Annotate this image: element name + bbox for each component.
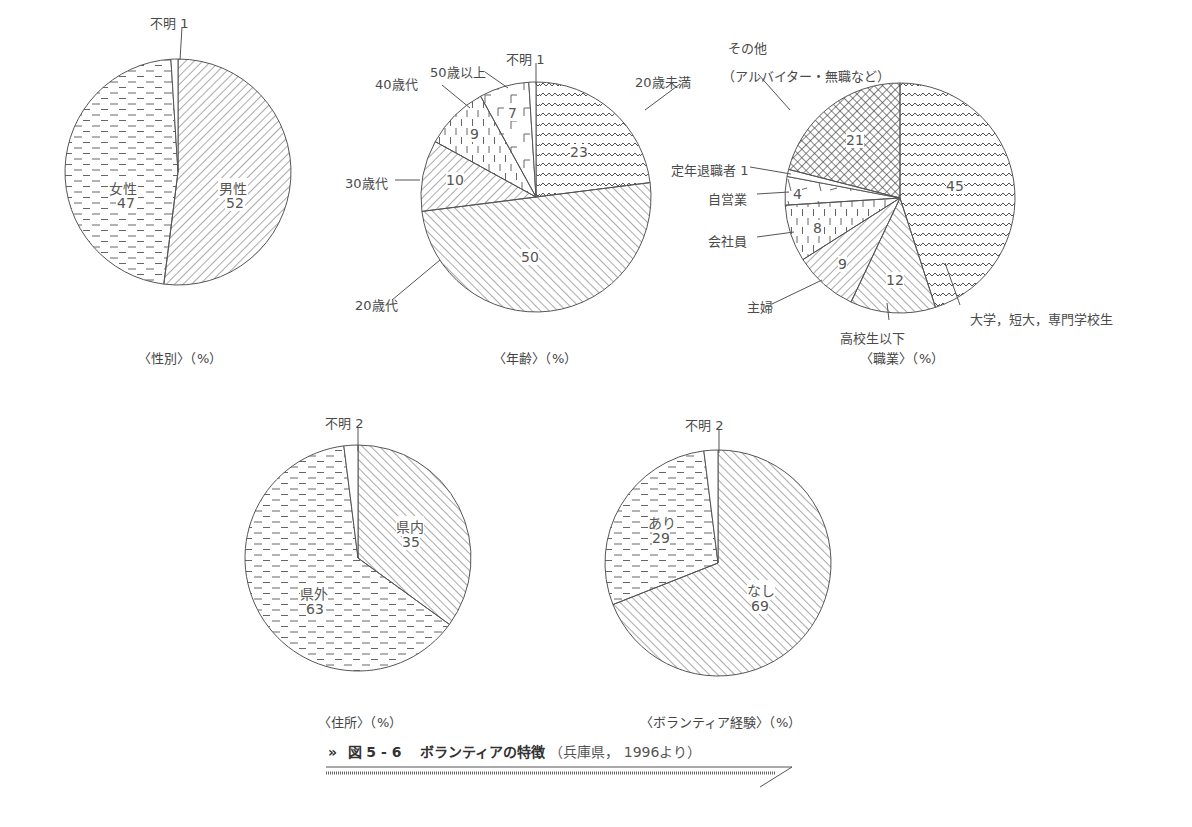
age-twenties-value: 50 — [521, 249, 539, 265]
job-company-label: 会社員 — [708, 231, 747, 250]
pie-slice — [164, 59, 291, 285]
exp-no-value: 69 — [751, 598, 769, 614]
age-unknown-label: 不明 1 — [506, 49, 544, 68]
job-housewife-value: 9 — [838, 256, 847, 272]
address-inside-value: 35 — [402, 534, 420, 550]
leader-line — [442, 85, 470, 108]
exp-yes-value: 29 — [652, 530, 670, 546]
gender-caption: 〈性別〉（%） — [138, 348, 222, 367]
age-forties-value: 9 — [470, 126, 479, 142]
leader-line — [757, 192, 789, 194]
job-caption: 〈職業〉（%） — [860, 348, 944, 367]
leader-line — [392, 260, 440, 300]
leader-line — [485, 72, 508, 88]
figure-title: ボランティアの特徴 — [420, 744, 545, 760]
caption-marker-icon: » — [328, 744, 337, 760]
age-thirties-value: 10 — [446, 172, 464, 188]
leader-line — [757, 232, 794, 237]
gender-male-value: 52 — [225, 195, 245, 211]
job-univ-value: 45 — [946, 178, 964, 194]
pie-slice — [536, 82, 650, 197]
address-outside-label: 県外 — [300, 583, 328, 603]
figure-number: 図 5 - 6 — [348, 744, 402, 760]
pie-age — [421, 82, 651, 312]
job-other-label: その他 — [728, 38, 767, 57]
job-self-label: 自営業 — [708, 189, 747, 208]
leader-line — [750, 167, 791, 174]
gender-female-value: 47 — [116, 195, 136, 211]
pie-address — [245, 445, 471, 671]
age-forties-label: 40歳代 — [375, 74, 418, 93]
pie-experience — [605, 450, 831, 676]
age-under20-label: 20歳未満 — [635, 72, 691, 91]
job-company-value: 8 — [813, 220, 822, 236]
job-other-sublabel: （アルバイター・無職など） — [722, 66, 890, 85]
gender-unknown-label: 不明 1 — [150, 13, 188, 32]
exp-yes-label: あり — [648, 512, 676, 532]
address-unknown-label: 不明 2 — [325, 413, 363, 432]
job-housewife-label: 主婦 — [747, 297, 773, 316]
job-highschool-label: 高校生以下 — [840, 328, 905, 347]
age-over50-label: 50歳以上 — [430, 62, 486, 81]
age-under20-value: 23 — [570, 144, 588, 160]
pie-slice — [65, 59, 178, 284]
job-other-value: 21 — [846, 132, 864, 148]
address-inside-label: 県内 — [396, 516, 424, 536]
age-twenties-label: 20歳代 — [355, 295, 398, 314]
figure-caption: » 図 5 - 6 ボランティアの特徴 （兵庫県， 1996より） — [328, 741, 701, 761]
exp-no-label: なし — [747, 580, 775, 600]
address-caption: 〈住所〉（%） — [318, 712, 402, 731]
job-univ-label: 大学，短大，専門学校生 — [970, 309, 1113, 328]
job-highschool-value: 12 — [886, 272, 904, 288]
address-outside-value: 63 — [306, 601, 324, 617]
exp-caption: 〈ボランティア経験〉（%） — [640, 712, 801, 731]
age-over50-value: 7 — [508, 105, 517, 121]
leader-line — [772, 280, 822, 304]
job-retired-label: 定年退職者 1 — [671, 160, 748, 179]
age-thirties-label: 30歳代 — [345, 173, 388, 192]
job-self-value: 4 — [793, 186, 802, 202]
figure-source: （兵庫県， 1996より） — [549, 744, 701, 760]
age-caption: 〈年齢〉（%） — [493, 348, 577, 367]
figure-canvas — [0, 0, 1192, 827]
pie-gender — [65, 59, 291, 285]
exp-unknown-label: 不明 2 — [685, 415, 723, 434]
